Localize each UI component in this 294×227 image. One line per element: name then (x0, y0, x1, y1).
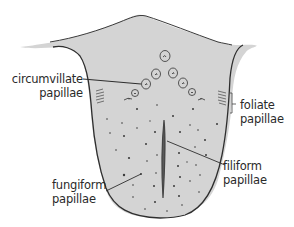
circumvillate-label-line2: papillae (2, 86, 83, 100)
filiform-label-line1: filiform (223, 159, 267, 173)
fungiform-label-line1: fungiform (52, 178, 106, 192)
circumvillate-label: circumvillate papillae (2, 72, 83, 100)
tongue-diagram: circumvillate papillae foliate papillae … (0, 0, 294, 227)
foliate-label: foliate papillae (240, 98, 284, 126)
circumvillate-label-line1: circumvillate (2, 72, 83, 86)
fungiform-label: fungiform papillae (52, 178, 106, 206)
foliate-label-line2: papillae (240, 112, 284, 126)
fungiform-label-line2: papillae (52, 192, 106, 206)
filiform-label-line2: papillae (223, 173, 267, 187)
filiform-label: filiform papillae (223, 159, 267, 187)
foliate-label-line1: foliate (240, 98, 284, 112)
